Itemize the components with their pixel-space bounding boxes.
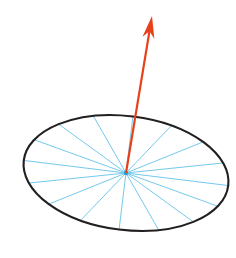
figure-canvas bbox=[0, 0, 236, 258]
diagram-svg bbox=[0, 0, 236, 258]
